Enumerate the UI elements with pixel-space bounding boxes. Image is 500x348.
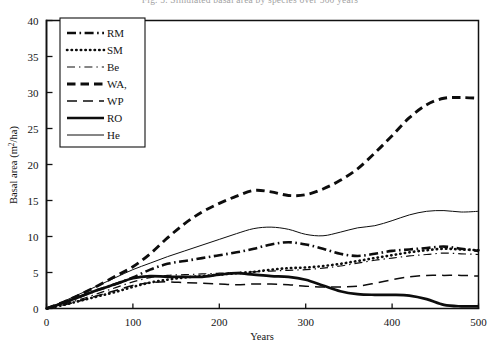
x-axis-title: Years (250, 331, 273, 342)
x-tick-label: 200 (211, 316, 228, 328)
figure-caption-partial: Fig. 5. Simulated basal area by species … (0, 0, 500, 11)
caption-text: Fig. 5. Simulated basal area by species … (142, 0, 358, 6)
series-line-wp (47, 275, 479, 308)
y-axis-title-main: Basal area (m (8, 146, 20, 204)
y-tick-label: 20 (28, 159, 40, 171)
legend-label-sm: SM (107, 44, 123, 56)
svg-text:Basal area (m2/ha): Basal area (m2/ha) (7, 126, 21, 204)
legend-label-wp: WP (107, 95, 124, 107)
legend-label-ro: RO (107, 112, 122, 124)
x-tick-label: 100 (125, 316, 142, 328)
x-tick-label: 400 (384, 316, 401, 328)
series-line-be (47, 253, 479, 308)
y-tick-label: 35 (28, 51, 40, 63)
y-axis-ticks: 0510152025303540 (28, 15, 53, 315)
x-tick-label: 0 (44, 316, 50, 328)
y-axis-title: Basal area (m2/ha) (7, 126, 21, 204)
legend-label-rm: RM (107, 27, 124, 39)
x-axis-ticks: 0100200300400500 (44, 304, 488, 328)
y-tick-label: 5 (33, 267, 39, 279)
y-tick-label: 40 (28, 15, 40, 27)
legend-label-wa: WA, (107, 78, 127, 90)
y-tick-label: 0 (33, 303, 39, 315)
y-axis-title-tail: /ha) (8, 126, 20, 143)
basal-area-line-chart: 0100200300400500 0510152025303540 Years … (0, 0, 500, 348)
x-tick-label: 500 (470, 316, 487, 328)
y-tick-label: 25 (28, 123, 40, 135)
y-tick-label: 10 (28, 231, 40, 243)
series-line-he (47, 211, 479, 309)
figure-container: Fig. 5. Simulated basal area by species … (0, 0, 500, 348)
legend: RMSMBeWA,WPROHe (60, 18, 145, 147)
legend-label-he: He (107, 129, 120, 141)
legend-label-be: Be (107, 61, 119, 73)
x-tick-label: 300 (297, 316, 314, 328)
y-tick-label: 15 (28, 195, 40, 207)
y-tick-label: 30 (28, 87, 40, 99)
